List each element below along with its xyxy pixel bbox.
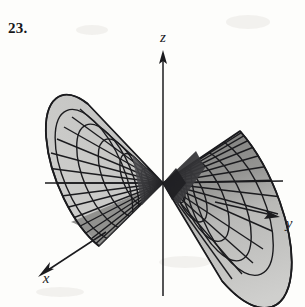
- figure-container: 23.: [0, 0, 305, 307]
- z-axis-label: z: [159, 29, 166, 45]
- left-cone-lobe: [39, 95, 163, 251]
- cone-surface-plot: z y x: [0, 0, 305, 307]
- x-axis-line: [48, 232, 106, 270]
- y-axis-label: y: [284, 215, 293, 231]
- x-axis-label: x: [42, 270, 50, 286]
